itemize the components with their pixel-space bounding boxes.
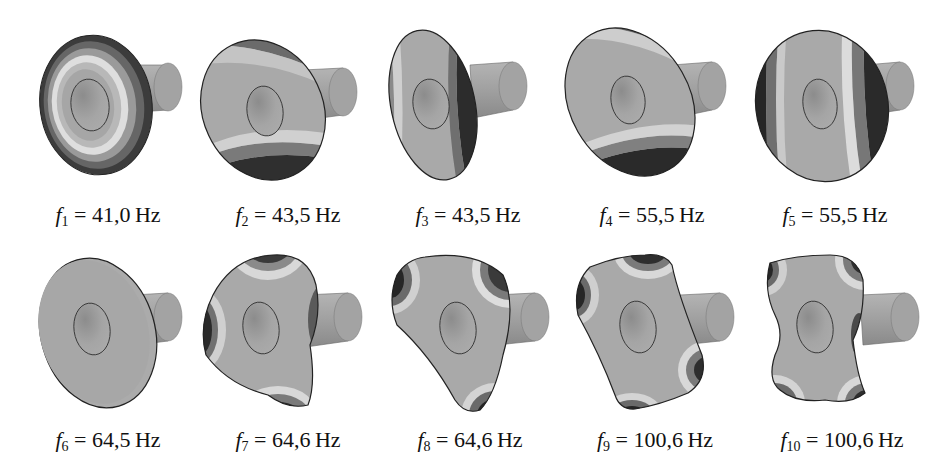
mode-7-disc-icon bbox=[198, 245, 378, 425]
mode-3-disc-icon bbox=[378, 10, 558, 190]
freq-unit: Hz bbox=[135, 427, 161, 452]
freq-value: 64,5 bbox=[92, 427, 131, 452]
mode-caption-9: f9 = 100,6 Hz bbox=[565, 427, 745, 455]
freq-unit: Hz bbox=[497, 427, 523, 452]
mode-caption-5: f5 = 55,5 Hz bbox=[745, 202, 925, 230]
freq-unit: Hz bbox=[862, 202, 888, 227]
freq-value: 100,6 bbox=[633, 427, 683, 452]
mode-index: 5 bbox=[789, 214, 796, 229]
mode-caption-4: f4 = 55,5 Hz bbox=[562, 202, 742, 230]
freq-unit: Hz bbox=[135, 202, 161, 227]
freq-value: 43,5 bbox=[452, 202, 491, 227]
mode-2-disc-icon bbox=[198, 10, 378, 190]
mode-shapes-figure: f1 = 41,0 Hz f2 = 43,5 Hz f3 = 43,5 Hz f… bbox=[0, 0, 939, 471]
freq-unit: Hz bbox=[315, 202, 341, 227]
mode-caption-1: f1 = 41,0 Hz bbox=[18, 202, 198, 230]
freq-value: 55,5 bbox=[819, 202, 858, 227]
mode-caption-10: f10 = 100,6 Hz bbox=[752, 427, 932, 455]
mode-index: 10 bbox=[787, 439, 801, 454]
mode-caption-6: f6 = 64,5 Hz bbox=[18, 427, 198, 455]
mode-index: 8 bbox=[424, 439, 431, 454]
freq-value: 55,5 bbox=[636, 202, 675, 227]
mode-8-disc-icon bbox=[385, 245, 565, 425]
mode-10-disc-icon bbox=[755, 245, 935, 425]
mode-index: 7 bbox=[242, 439, 249, 454]
mode-5-disc-icon bbox=[740, 10, 920, 190]
freq-value: 43,5 bbox=[272, 202, 311, 227]
mode-6-disc-icon bbox=[18, 245, 198, 425]
mode-index: 9 bbox=[603, 439, 610, 454]
mode-index: 3 bbox=[422, 214, 429, 229]
mode-caption-3: f3 = 43,5 Hz bbox=[378, 202, 558, 230]
freq-unit: Hz bbox=[315, 427, 341, 452]
freq-unit: Hz bbox=[878, 427, 904, 452]
mode-4-disc-icon bbox=[562, 10, 742, 190]
mode-caption-2: f2 = 43,5 Hz bbox=[198, 202, 378, 230]
mode-caption-8: f8 = 64,6 Hz bbox=[380, 427, 560, 455]
freq-unit: Hz bbox=[679, 202, 705, 227]
freq-value: 41,0 bbox=[92, 202, 131, 227]
mode-9-disc-icon bbox=[570, 245, 750, 425]
freq-value: 64,6 bbox=[454, 427, 493, 452]
mode-index: 1 bbox=[62, 214, 69, 229]
mode-index: 6 bbox=[62, 439, 69, 454]
mode-index: 2 bbox=[242, 214, 249, 229]
mode-caption-7: f7 = 64,6 Hz bbox=[198, 427, 378, 455]
mode-index: 4 bbox=[606, 214, 613, 229]
freq-value: 100,6 bbox=[824, 427, 874, 452]
mode-1-disc-icon bbox=[18, 10, 198, 190]
freq-unit: Hz bbox=[687, 427, 713, 452]
freq-value: 64,6 bbox=[272, 427, 311, 452]
freq-unit: Hz bbox=[495, 202, 521, 227]
